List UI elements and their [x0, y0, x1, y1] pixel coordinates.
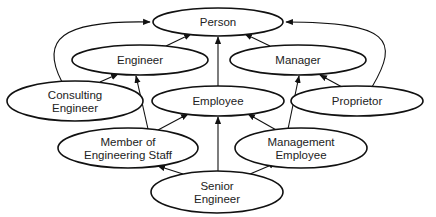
- node-label: Employee: [275, 149, 326, 161]
- node-proprietor: Proprietor: [291, 86, 423, 116]
- node-label: Engineer: [117, 54, 163, 66]
- edge-member-of-engineering-staff-to-employee: [158, 114, 188, 130]
- node-person: Person: [153, 8, 283, 36]
- node-label: Manager: [275, 54, 321, 66]
- node-label: Management: [267, 136, 335, 148]
- node-label: Member of: [101, 136, 157, 148]
- node-label: Employee: [192, 95, 243, 107]
- edge-management-employee-to-employee: [248, 114, 278, 131]
- edge-proprietor-to-manager: [320, 75, 342, 87]
- node-label: Consulting: [48, 89, 102, 101]
- node-label: Senior: [200, 180, 233, 192]
- node-manager: Manager: [230, 45, 366, 75]
- edge-manager-to-person: [245, 34, 270, 46]
- node-label: Engineer: [52, 102, 98, 114]
- class-hierarchy-diagram: PersonEngineerManagerConsultingEngineerE…: [0, 0, 436, 217]
- node-label: Proprietor: [332, 95, 383, 107]
- node-label: Person: [200, 16, 236, 28]
- node-management-employee: ManagementEmployee: [235, 128, 367, 168]
- node-label: Engineer: [194, 193, 240, 205]
- edge-consulting-engineer-to-engineer: [100, 74, 118, 82]
- node-employee: Employee: [152, 86, 284, 116]
- node-engineer: Engineer: [72, 45, 208, 75]
- node-label: Engineering Staff: [84, 149, 173, 161]
- node-consulting-engineer: ConsultingEngineer: [7, 81, 143, 121]
- node-member-of-engineering-staff: Member ofEngineering Staff: [58, 128, 198, 168]
- edge-engineer-to-person: [166, 34, 191, 46]
- edge-senior-engineer-to-member-of-engineering-staff: [158, 166, 183, 174]
- nodes-layer: PersonEngineerManagerConsultingEngineerE…: [7, 8, 423, 213]
- node-senior-engineer: SeniorEngineer: [151, 171, 283, 213]
